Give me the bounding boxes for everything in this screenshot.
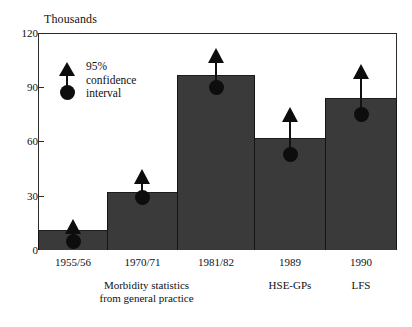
- x-tick-label-1970-71: 1970/71: [107, 256, 178, 268]
- x-group-label-line-2: from general practice: [38, 292, 255, 305]
- x-group-label-lfs: LFS: [325, 279, 397, 292]
- x-tick-label-1981-82: 1981/82: [177, 256, 255, 268]
- bar-chart: Thousands 120 90 60 30 0 95% confidence …: [0, 0, 412, 327]
- x-group-label-line-1: Morbidity statistics: [38, 279, 255, 292]
- x-group-label-hse-gps: HSE-GPs: [254, 279, 326, 292]
- x-tick-label-1989: 1989: [254, 256, 326, 268]
- x-group-label-morbidity-statistics: Morbidity statistics from general practi…: [38, 279, 255, 304]
- bar-1981-82: [177, 75, 255, 250]
- bars-layer: [0, 0, 412, 327]
- x-tick-label-1990: 1990: [325, 256, 397, 268]
- x-tick-label-1955-56: 1955/56: [38, 256, 108, 268]
